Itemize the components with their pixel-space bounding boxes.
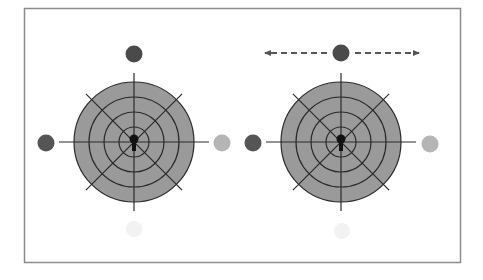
target-diagram <box>0 0 483 280</box>
dot-left-left <box>38 135 55 152</box>
ghost-dot-right <box>334 223 350 239</box>
dot-top-left <box>126 46 143 63</box>
keyhole-stem-left <box>132 141 136 151</box>
dot-right-left <box>214 135 231 152</box>
diagram-stage <box>0 0 483 280</box>
dot-top-right <box>333 45 350 62</box>
dot-left-right <box>245 135 262 152</box>
ghost-dot-left <box>126 221 142 237</box>
keyhole-stem-right <box>339 141 343 151</box>
dot-right-right <box>422 136 439 153</box>
